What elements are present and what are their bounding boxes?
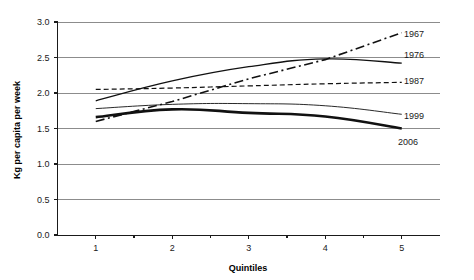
y-tick-marks xyxy=(54,22,58,235)
x-axis-title: Quintiles xyxy=(229,263,268,273)
y-axis xyxy=(54,22,58,235)
series-labels: 19671976198719992006 xyxy=(398,29,424,147)
x-tick-label: 1 xyxy=(93,243,98,253)
x-tick-label: 4 xyxy=(323,243,328,253)
y-tick-label: 2.0 xyxy=(37,88,50,98)
series-lines xyxy=(96,33,402,129)
line-chart: 0.00.51.01.52.02.53.0 12345 Kg per capit… xyxy=(0,0,474,280)
series-label-1999: 1999 xyxy=(404,111,424,121)
y-tick-label: 1.5 xyxy=(37,124,50,134)
series-line-1967 xyxy=(96,33,402,122)
y-tick-label: 0.0 xyxy=(37,230,50,240)
x-axis xyxy=(58,235,441,239)
x-tick-label: 3 xyxy=(246,243,251,253)
series-label-1976: 1976 xyxy=(404,50,424,60)
y-tick-label: 1.0 xyxy=(37,159,50,169)
y-tick-labels: 0.00.51.01.52.02.53.0 xyxy=(37,17,50,240)
gridlines xyxy=(58,22,441,235)
series-label-1967: 1967 xyxy=(404,29,424,39)
series-line-1976 xyxy=(96,59,402,101)
x-tick-label: 5 xyxy=(399,243,404,253)
chart-canvas: 0.00.51.01.52.02.53.0 12345 Kg per capit… xyxy=(0,0,474,280)
y-tick-label: 3.0 xyxy=(37,17,50,27)
series-label-1987: 1987 xyxy=(404,76,424,86)
series-line-2006 xyxy=(96,109,402,128)
x-tick-labels: 12345 xyxy=(93,243,404,253)
y-tick-label: 0.5 xyxy=(37,195,50,205)
x-tick-label: 2 xyxy=(170,243,175,253)
series-label-2006: 2006 xyxy=(398,137,418,147)
y-tick-label: 2.5 xyxy=(37,53,50,63)
y-axis-title: Kg per capita per week xyxy=(12,80,22,179)
